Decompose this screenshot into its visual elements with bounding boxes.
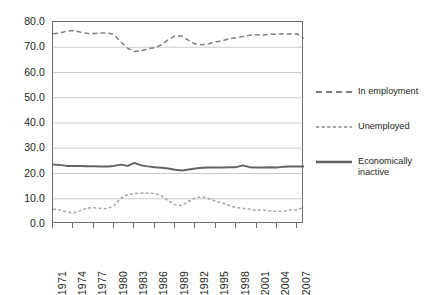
x-tick-label: 2007 (301, 271, 312, 295)
x-tick-label: 1992 (199, 271, 210, 295)
gridlines (53, 47, 304, 199)
plot-area (52, 21, 303, 223)
x-tick (235, 223, 236, 228)
x-tick (256, 223, 257, 228)
legend-swatch-icon (316, 156, 352, 168)
x-tick (133, 223, 134, 228)
series-line (53, 31, 304, 52)
y-tick-label: 40.0 (1, 117, 45, 128)
series-line (53, 193, 304, 213)
y-tick-label: 0.0 (1, 218, 45, 229)
x-tick (154, 223, 155, 228)
x-tick-label: 1980 (118, 271, 129, 295)
y-tick-label: 70.0 (1, 41, 45, 52)
x-tick-label: 2004 (280, 271, 291, 295)
x-tick (296, 223, 297, 228)
x-tick (174, 223, 175, 228)
y-axis: 0.010.020.030.040.050.060.070.080.0 (0, 0, 48, 281)
x-tick (72, 223, 73, 228)
x-tick-label: 1977 (97, 271, 108, 295)
plot-svg (53, 22, 304, 224)
legend-item[interactable]: In employment (316, 86, 443, 98)
legend-label: Unemployed (358, 121, 410, 132)
x-tick-label: 1998 (240, 271, 251, 295)
series-lines (53, 31, 304, 213)
x-tick (276, 223, 277, 228)
y-tick-label: 10.0 (1, 193, 45, 204)
x-tick-label: 1986 (158, 271, 169, 295)
x-tick-label: 1983 (138, 271, 149, 295)
legend-swatch-icon (316, 121, 352, 133)
y-tick-label: 80.0 (1, 16, 45, 27)
x-tick (113, 223, 114, 228)
legend-label: In employment (358, 86, 418, 97)
x-tick-label: 1974 (77, 271, 88, 295)
y-tick-label: 60.0 (1, 66, 45, 77)
series-line (53, 163, 304, 171)
x-tick-label: 1989 (179, 271, 190, 295)
x-tick (52, 223, 53, 228)
y-tick-label: 30.0 (1, 142, 45, 153)
y-tick-label: 50.0 (1, 92, 45, 103)
legend-label: Economically inactive (358, 156, 412, 178)
legend-item[interactable]: Unemployed (316, 121, 443, 133)
legend-swatch-icon (316, 86, 352, 98)
x-tick (215, 223, 216, 228)
y-tick-label: 20.0 (1, 167, 45, 178)
x-axis: 1971197419771980198319861989199219951998… (52, 229, 303, 275)
legend-item[interactable]: Economically inactive (316, 156, 443, 178)
x-tick-label: 1971 (57, 271, 68, 295)
x-tick (194, 223, 195, 228)
x-tick-label: 1995 (219, 271, 230, 295)
x-tick (93, 223, 94, 228)
x-tick-label: 2001 (260, 271, 271, 295)
